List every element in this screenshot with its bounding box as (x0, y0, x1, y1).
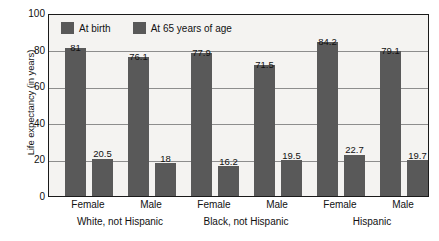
group-label-white: White, not Hispanic (54, 216, 186, 227)
bar-value-at-birth-white-male: 76.1 (122, 52, 155, 62)
bars-layer: 81 20.5 76.1 18 77.9 16.2 71.5 19.5 84.2… (49, 15, 428, 196)
group-label-hispanic: Hispanic (306, 216, 438, 227)
bar-at-birth-white-male (128, 57, 149, 196)
y-tick-80: 80 (34, 46, 45, 56)
bar-at-birth-white-female (65, 48, 86, 196)
x-tick-white-female: Female (53, 199, 123, 210)
x-tick-black-male: Male (242, 199, 312, 210)
y-tick-20: 20 (34, 155, 45, 165)
life-expectancy-bar-chart: Life expectancy (in years) 100 80 60 40 … (0, 0, 439, 241)
y-tick-0: 0 (39, 192, 45, 202)
bar-at-birth-hispanic-female (317, 42, 338, 196)
bar-value-at-birth-hispanic-female: 84.2 (311, 37, 344, 47)
legend-label-at-birth: At birth (79, 23, 111, 34)
x-tick-black-female: Female (179, 199, 249, 210)
bar-at-65-white-female (92, 159, 113, 197)
legend-swatch-icon-at-65 (133, 22, 146, 34)
bar-at-65-black-female (218, 166, 239, 196)
bar-value-at-birth-black-male: 71.5 (248, 60, 281, 70)
bar-at-birth-black-female (191, 53, 212, 196)
plot-area: 81 20.5 76.1 18 77.9 16.2 71.5 19.5 84.2… (48, 14, 429, 197)
legend-item-at-birth: At birth (61, 22, 111, 34)
y-tick-40: 40 (34, 119, 45, 129)
bar-at-birth-hispanic-male (380, 51, 401, 196)
bar-value-at-birth-hispanic-male: 79.1 (374, 46, 407, 56)
x-tick-white-male: Male (116, 199, 186, 210)
x-tick-hispanic-male: Male (368, 199, 438, 210)
legend-item-at-65: At 65 years of age (133, 22, 232, 34)
legend-label-at-65: At 65 years of age (151, 23, 232, 34)
bar-value-at-65-white-male: 18 (149, 154, 182, 164)
bar-value-at-birth-black-female: 77.9 (185, 48, 218, 58)
y-tick-100: 100 (28, 9, 45, 19)
y-axis-tick-labels: 100 80 60 40 20 0 (14, 14, 45, 197)
bar-value-at-65-hispanic-female: 22.7 (338, 145, 371, 155)
bar-value-at-65-white-female: 20.5 (86, 149, 119, 159)
bar-value-at-65-black-female: 16.2 (212, 157, 245, 167)
bar-at-65-white-male (155, 163, 176, 196)
chart-legend: At birth At 65 years of age (61, 19, 232, 37)
bar-at-65-hispanic-male (407, 160, 428, 196)
bar-value-at-65-black-male: 19.5 (275, 151, 308, 161)
x-axis-group-labels: White, not Hispanic Black, not Hispanic … (48, 216, 429, 232)
x-axis-tick-labels: Female Male Female Male Female Male (48, 199, 429, 215)
x-tick-hispanic-female: Female (305, 199, 375, 210)
bar-value-at-65-hispanic-male: 19.7 (401, 151, 429, 161)
y-tick-60: 60 (34, 82, 45, 92)
bar-at-birth-black-male (254, 65, 275, 196)
legend-swatch-icon-at-birth (61, 22, 74, 34)
bar-value-at-birth-white-female: 81 (59, 43, 92, 53)
bar-at-65-black-male (281, 160, 302, 196)
group-label-black: Black, not Hispanic (180, 216, 312, 227)
bar-at-65-hispanic-female (344, 155, 365, 197)
